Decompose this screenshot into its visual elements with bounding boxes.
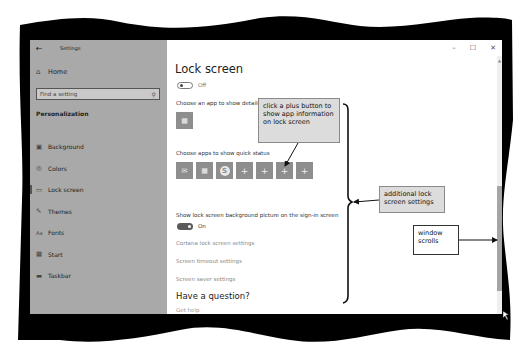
toggle-state-label: Off xyxy=(198,82,206,88)
quick-status-tile-mail[interactable]: ✉ xyxy=(176,162,193,179)
sidebar-item-colors[interactable]: ◎ Colors xyxy=(36,158,84,180)
search-icon[interactable]: ⚲ xyxy=(152,91,156,98)
sidebar-item-label: Fonts xyxy=(48,229,64,236)
scroll-up-icon[interactable]: ▲ xyxy=(497,58,502,63)
lock-screen-icon: ▭ xyxy=(36,186,48,194)
sidebar-nav: ▣ Background ◎ Colors ▭ Lock screen ✎ Th… xyxy=(36,136,84,287)
vertical-scrollbar[interactable]: ▲ xyxy=(497,56,502,314)
screen-timeout-link[interactable]: Screen timeout settings xyxy=(176,258,242,264)
skype-icon: S xyxy=(220,166,230,176)
quick-status-add-button[interactable]: + xyxy=(256,162,273,179)
signin-background-toggle[interactable] xyxy=(177,223,193,230)
sidebar-item-fonts[interactable]: Aa Fonts xyxy=(36,222,84,244)
page-title: Lock screen xyxy=(175,62,243,76)
settings-window: ← Settings ⌂ Home Find a setting ⚲ Perso… xyxy=(30,40,502,314)
plus-icon: + xyxy=(261,166,269,176)
search-input[interactable]: Find a setting ⚲ xyxy=(36,88,160,100)
sidebar-item-label: Colors xyxy=(48,165,67,172)
sidebar-item-label: Lock screen xyxy=(48,186,84,193)
callout-additional-settings: additional lock screen settings xyxy=(379,186,445,213)
quick-status-add-button[interactable]: + xyxy=(276,162,293,179)
content-pane: – ☐ ✕ Lock screen Off Choose an app to s… xyxy=(167,40,502,314)
callout-plus-button: click a plus button to show app informat… xyxy=(258,98,340,143)
quick-status-label: Choose apps to show quick status xyxy=(176,150,270,156)
get-help-link[interactable]: Get help xyxy=(176,307,199,313)
mail-icon: ✉ xyxy=(182,167,188,175)
sidebar-item-themes[interactable]: ✎ Themes xyxy=(36,201,84,223)
sidebar-item-label: Themes xyxy=(48,208,72,215)
sidebar-item-label: Taskbar xyxy=(48,272,71,279)
section-heading: Personalization xyxy=(36,110,88,117)
detailed-status-calendar-tile[interactable]: ▦ xyxy=(176,112,193,129)
sidebar-item-start[interactable]: ▦ Start xyxy=(36,244,84,266)
start-icon: ▦ xyxy=(36,250,48,258)
fonts-icon: Aa xyxy=(36,230,48,236)
taskbar-icon: ▬ xyxy=(36,272,48,280)
sidebar-item-label: Background xyxy=(48,143,84,150)
lock-screen-toggle[interactable] xyxy=(177,82,193,89)
window-controls: – ☐ ✕ xyxy=(452,44,496,52)
themes-icon: ✎ xyxy=(36,207,48,215)
calendar-icon: ▦ xyxy=(201,167,208,175)
close-icon[interactable]: ✕ xyxy=(490,44,496,52)
sidebar-item-label: Home xyxy=(48,68,67,76)
quick-status-add-button[interactable]: + xyxy=(236,162,253,179)
help-heading: Have a question? xyxy=(176,291,250,301)
maximize-icon[interactable]: ☐ xyxy=(470,44,476,52)
sidebar-item-label: Start xyxy=(48,251,63,258)
quick-status-tile-skype[interactable]: S xyxy=(216,162,233,179)
scroll-thumb[interactable] xyxy=(497,186,502,291)
home-icon: ⌂ xyxy=(36,68,48,76)
minimize-icon[interactable]: – xyxy=(452,44,456,52)
plus-icon: + xyxy=(281,166,289,176)
titlebar-left: ← Settings xyxy=(30,40,167,56)
plus-icon: + xyxy=(241,166,249,176)
cortana-lock-screen-link[interactable]: Cortana lock screen settings xyxy=(176,240,254,246)
sidebar-item-taskbar[interactable]: ▬ Taskbar xyxy=(36,265,84,287)
plus-icon: + xyxy=(301,166,309,176)
search-placeholder: Find a setting xyxy=(40,91,77,97)
sidebar: ← Settings ⌂ Home Find a setting ⚲ Perso… xyxy=(30,40,167,314)
quick-status-tile-calendar[interactable]: ▦ xyxy=(196,162,213,179)
callout-window-scrolls: window scrolls xyxy=(413,225,459,255)
palette-icon: ◎ xyxy=(36,164,48,172)
calendar-icon: ▦ xyxy=(181,117,188,125)
back-arrow-icon[interactable]: ← xyxy=(36,44,52,53)
signin-background-label: Show lock screen background picture on t… xyxy=(176,212,338,218)
sidebar-item-background[interactable]: ▣ Background xyxy=(36,136,84,158)
screen-saver-link[interactable]: Screen saver settings xyxy=(176,276,235,282)
toggle-state-label: On xyxy=(198,223,206,229)
sidebar-item-lock-screen[interactable]: ▭ Lock screen xyxy=(36,179,84,201)
background-icon: ▣ xyxy=(36,143,48,151)
quick-status-add-button[interactable]: + xyxy=(296,162,313,179)
app-title: Settings xyxy=(60,45,81,51)
sidebar-item-home[interactable]: ⌂ Home xyxy=(36,68,67,76)
